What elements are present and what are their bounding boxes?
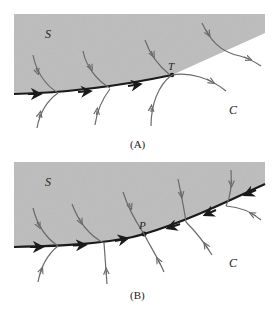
- panel-b: S P C (B): [14, 162, 265, 302]
- caption-b: (B): [130, 289, 145, 302]
- point-p-label: P: [138, 219, 146, 231]
- region-s-label: S: [45, 27, 51, 41]
- panel-a: S T C (A): [14, 14, 265, 151]
- region-c-label: C: [229, 256, 238, 270]
- caption-a: (A): [130, 138, 146, 151]
- point-t-label: T: [168, 60, 175, 72]
- figure-canvas: S T C (A): [0, 0, 279, 311]
- region-s-label: S: [45, 175, 51, 189]
- region-c-label: C: [229, 103, 238, 117]
